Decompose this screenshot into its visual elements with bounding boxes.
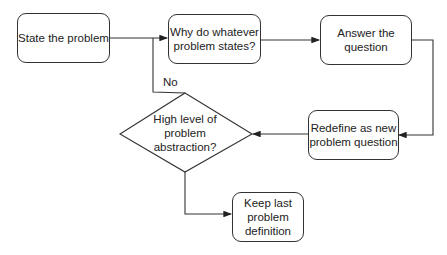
node-keep-last-definition: Keep last problem definition (232, 192, 304, 242)
node-answer-the-question: Answer the question (320, 15, 412, 65)
node-state-the-problem: State the problem (17, 13, 110, 63)
node-why-do-whatever: Why do whatever problem states? (168, 14, 261, 64)
node-redefine: Redefine as new problem question (308, 110, 399, 160)
edge-decision-to-keep (185, 172, 231, 214)
decision-label: High level of problem abstraction? (135, 112, 235, 154)
edge-label-no: No (163, 76, 178, 88)
